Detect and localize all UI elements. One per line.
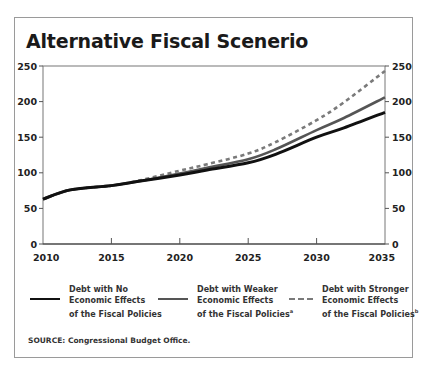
- y-tick-label-right: 250: [392, 61, 412, 72]
- legend-swatch-solid-gray: [158, 298, 188, 300]
- y-tick-label-left: 150: [17, 132, 37, 143]
- legend-item-weaker-effects: Debt with Weaker Economic Effects of the…: [158, 284, 293, 320]
- legend-swatch-dashed-gray: [289, 298, 313, 300]
- y-tick-label-right: 150: [392, 132, 412, 143]
- y-tick-label-right: 50: [392, 203, 406, 214]
- series-line-stronger-effects: [43, 71, 385, 199]
- legend-label: Debt with Stronger Economic Effects of t…: [322, 284, 418, 320]
- x-tick-label: 2030: [303, 252, 330, 263]
- x-tick-label: 2010: [33, 252, 60, 263]
- legend-label: Debt with No Economic Effects of the Fis…: [69, 284, 162, 320]
- series-lines: [43, 71, 385, 199]
- series-line-no-effects: [43, 112, 385, 199]
- legend-swatch-solid-black: [30, 298, 60, 300]
- y-tick-label-right: 200: [392, 96, 412, 107]
- plot-border: [43, 66, 385, 244]
- x-tick-label: 2020: [167, 252, 194, 263]
- legend-label: Debt with Weaker Economic Effects of the…: [197, 284, 293, 320]
- series-line-weaker-effects: [43, 97, 385, 199]
- y-tick-label-left: 200: [17, 96, 37, 107]
- y-tick-label-right: 100: [392, 167, 412, 178]
- source-note: SOURCE: Congressional Budget Office.: [28, 336, 190, 345]
- legend-item-stronger-effects: Debt with Stronger Economic Effects of t…: [289, 284, 418, 320]
- y-tick-label-left: 250: [17, 61, 37, 72]
- y-tick-label-right: 0: [392, 239, 399, 250]
- x-tick-label: 2025: [235, 252, 261, 263]
- x-tick-label: 2035: [369, 252, 395, 263]
- legend-item-no-effects: Debt with No Economic Effects of the Fis…: [30, 284, 162, 320]
- y-tick-label-left: 100: [17, 167, 37, 178]
- x-tick-label: 2015: [98, 252, 124, 263]
- y-tick-label-left: 0: [30, 239, 37, 250]
- y-tick-label-left: 50: [24, 203, 38, 214]
